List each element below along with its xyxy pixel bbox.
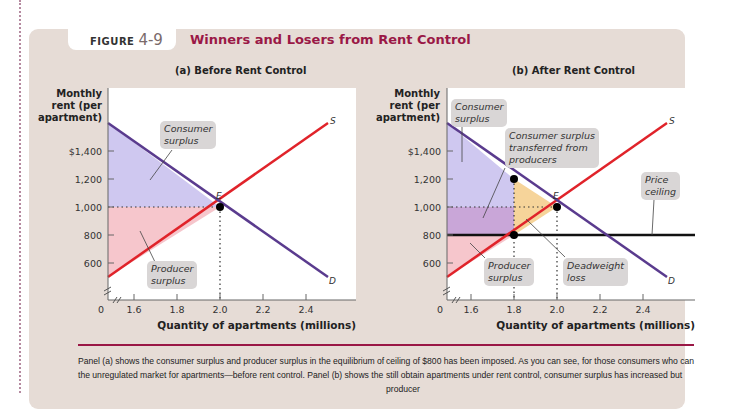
panel-b-producer-surplus-callout: Producer surplus [484,258,534,286]
panel-a-origin: 0 [98,304,104,315]
panel-b-transferred-surplus-area [447,207,514,235]
caption-left: Panel (a) shows the consumer surplus and… [78,354,388,382]
panel-b-ytick: 1,200 [414,174,441,185]
panel-a-xtick: 1.6 [126,304,141,315]
panel-a-x-label: Quantity of apartments (millions) [157,319,356,331]
panel-b-xtick: 2.4 [635,304,650,315]
panel-b-deadweight-loss-callout: Deadweight loss [563,258,628,286]
panel-b-ytick: 600 [423,258,441,269]
panel-b-ytick: $1,400 [408,146,441,157]
panel-a-xtick: 2.4 [298,304,313,315]
panel-b-demand-price-point [510,175,518,183]
panel-a-ytick: 1,000 [75,202,102,213]
panel-b-price-ceiling-callout: Price ceiling [641,172,680,200]
panel-b-ytick: 1,000 [414,202,441,213]
panel-b-equilibrium-label: E [553,191,559,201]
panel-b-equilibrium-point [553,203,561,211]
panel-b-ytick: 800 [423,230,441,241]
panel-b-supply-label: S [669,116,675,126]
panel-a-ytick: 1,200 [75,174,102,185]
panel-a-xtick: 2.0 [212,304,227,315]
panel-a-equilibrium-label: E [216,191,222,201]
caption-right: ceiling of $800 has been imposed. As you… [386,354,696,396]
panel-a-demand-label: D [329,276,336,286]
panel-a-ytick: 600 [84,258,102,269]
panel-b-xtick: 1.6 [463,304,478,315]
panel-a-producer-surplus-callout: Producer surplus [147,261,197,289]
panel-a-xtick: 2.2 [255,304,270,315]
panel-b-xtick: 1.8 [506,304,521,315]
panel-b-demand-label: D [668,276,675,286]
panel-b-ceiling-supply-point [510,231,518,239]
panel-b-xtick: 2.0 [549,304,564,315]
panel-b-transferred-callout: Consumer surplus transferred from produc… [505,128,599,168]
panel-b-xtick: 2.2 [592,304,607,315]
caption-divider [78,344,694,346]
panel-b-consumer-surplus-callout: Consumer surplus [451,99,507,127]
panel-b-origin: 0 [437,304,443,315]
panel-a-consumer-surplus-callout: Consumer surplus [160,121,216,149]
panel-a-equilibrium-point [216,203,224,211]
panel-a-ytick: $1,400 [69,146,102,157]
panel-b-x-label: Quantity of apartments (millions) [496,319,695,331]
panel-a-ytick: 800 [84,230,102,241]
panel-a-xtick: 1.8 [169,304,184,315]
panel-a-supply-label: S [330,116,336,126]
